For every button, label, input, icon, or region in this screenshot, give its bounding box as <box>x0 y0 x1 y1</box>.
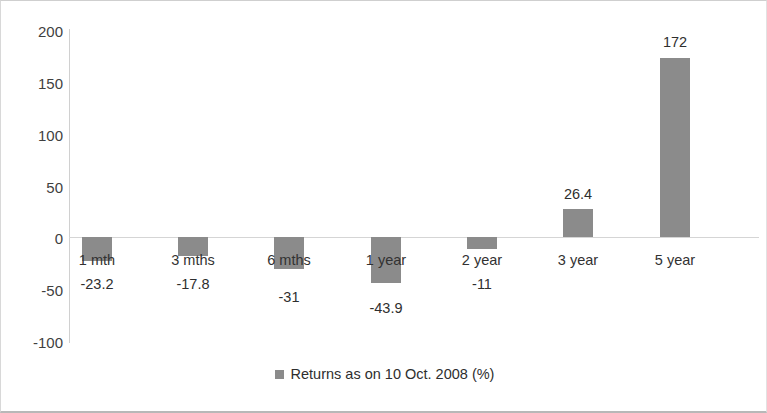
bar-group: 2 year -11 <box>438 1 526 413</box>
bar-group: 1 mth -23.2 <box>53 1 141 413</box>
x-axis-category-label: 2 year <box>438 253 526 268</box>
bar-group: 6 mths -31 <box>245 1 333 413</box>
bar[interactable] <box>563 209 593 237</box>
x-axis-category-label: 5 year <box>631 253 719 268</box>
bar-group: 5 year 172 <box>631 1 719 413</box>
bar-group: 3 mths -17.8 <box>149 1 237 413</box>
bar[interactable] <box>467 237 497 249</box>
x-axis-category-label: 1 mth <box>53 253 141 268</box>
bar-group: 3 year 26.4 <box>534 1 622 413</box>
x-axis-category-label: 3 mths <box>149 253 237 268</box>
bar-value-label: -23.2 <box>53 277 141 292</box>
chart-legend: Returns as on 10 Oct. 2008 (%) <box>1 367 767 382</box>
bar-value-label: 26.4 <box>534 187 622 202</box>
bar-value-label: -43.9 <box>342 301 430 316</box>
x-axis-category-label: 1 year <box>342 253 430 268</box>
bar-value-label: -31 <box>245 290 333 305</box>
x-axis-category-label: 3 year <box>534 253 622 268</box>
bar[interactable] <box>660 58 690 237</box>
bar-value-label: 172 <box>631 35 719 50</box>
bar-value-label: -11 <box>438 277 526 292</box>
chart-container: 200 150 100 50 0 -50 -100 1 mth -23.2 3 … <box>0 0 767 413</box>
legend-swatch-icon <box>275 370 284 379</box>
bar-group: 1 year -43.9 <box>342 1 430 413</box>
legend-label: Returns as on 10 Oct. 2008 (%) <box>291 367 495 382</box>
bar-value-label: -17.8 <box>149 277 237 292</box>
x-axis-category-label: 6 mths <box>245 253 333 268</box>
